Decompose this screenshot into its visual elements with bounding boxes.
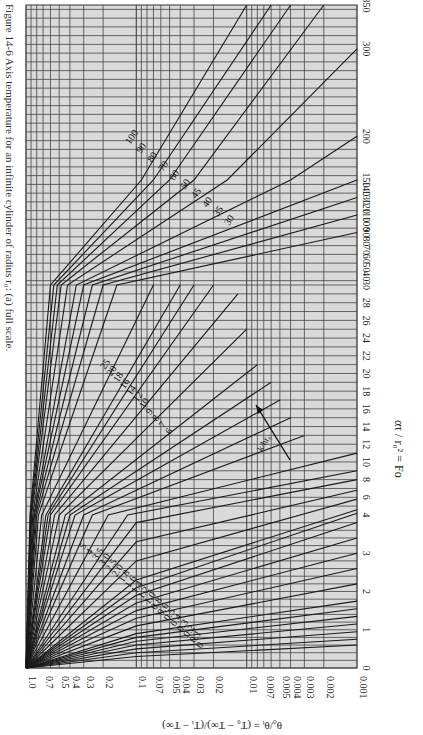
fo-tick-label: 150 (361, 173, 372, 188)
fo-tick-label: 24 (361, 333, 372, 343)
theta-tick-label: 0.004 (292, 676, 303, 699)
fo-tick-label: 26 (361, 315, 372, 325)
fo-tick-label: 200 (361, 129, 372, 144)
fo-axis-label: ατ / r₀² = Fo (392, 420, 406, 478)
theta-tick-label: 0.7 (44, 676, 55, 689)
fo-tick-label: 22 (361, 351, 372, 361)
theta-tick-label: 0.04 (181, 676, 192, 694)
fo-tick-label: 18 (361, 386, 372, 396)
fo-tick-label: 10 (361, 457, 372, 467)
theta-tick-label: 0.02 (214, 676, 225, 694)
theta-tick-label: 0.007 (265, 676, 276, 699)
heisler-chart: 543.53.02.52.01.81.61.41.21.00.80.60.50.… (0, 0, 423, 735)
fo-tick-label: 80 (361, 236, 372, 246)
fo-tick-label: 70 (361, 245, 372, 255)
fo-tick-label: 2 (361, 589, 372, 594)
fo-tick-label: 350 (361, 0, 372, 13)
theta-tick-label: 0.5 (60, 676, 71, 689)
fo-tick-label: 30 (361, 280, 372, 290)
theta-tick-label: 1.0 (27, 676, 38, 689)
theta-tick-label: 0.002 (325, 676, 336, 699)
fo-tick-label: 20 (361, 368, 372, 378)
theta-tick-label: 0.05 (171, 676, 182, 694)
fo-axis-ticks: 0123468101214161820222426283040506070809… (361, 0, 372, 671)
theta-tick-label: 0.4 (71, 676, 82, 689)
fo-tick-label: 40 (361, 271, 372, 281)
theta-tick-label: 0.003 (305, 676, 316, 699)
theta-axis-label: θ₀/θᵢ = (T₀ − T∞)/(Tᵢ − T∞) (162, 719, 282, 732)
theta-tick-label: 0.005 (281, 676, 292, 699)
theta-axis-ticks: 1.00.70.50.40.30.20.10.070.050.040.030.0… (27, 676, 369, 699)
theta-tick-label: 0.07 (154, 676, 165, 694)
theta-tick-label: 0.1 (137, 676, 148, 689)
fo-tick-label: 14 (361, 422, 372, 432)
fo-tick-label: 8 (361, 477, 372, 482)
fo-tick-label: 16 (361, 404, 372, 414)
theta-tick-label: 0.03 (195, 676, 206, 694)
fo-tick-label: 60 (361, 254, 372, 264)
theta-tick-label: 0.001 (358, 676, 369, 699)
fo-tick-label: 6 (361, 495, 372, 500)
fo-tick-label: 4 (361, 513, 372, 518)
fo-tick-label: 300 (361, 41, 372, 56)
fo-tick-label: 3 (361, 551, 372, 556)
theta-tick-label: 0.01 (248, 676, 259, 694)
theta-tick-label: 0.2 (104, 676, 115, 689)
fo-tick-label: 0 (361, 666, 372, 671)
fo-tick-label: 1 (361, 627, 372, 632)
theta-tick-label: 0.3 (85, 676, 96, 689)
fo-tick-label: 50 (361, 263, 372, 273)
fo-tick-label: 12 (361, 439, 372, 449)
fo-tick-label: 28 (361, 298, 372, 308)
